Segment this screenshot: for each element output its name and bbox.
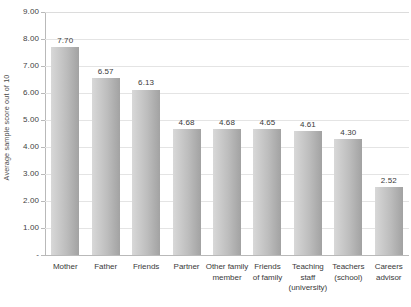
y-axis-tick: [41, 120, 45, 121]
x-axis-category-label: Teaching staff(university): [286, 262, 330, 294]
x-axis-category-label: Mother: [43, 262, 87, 273]
y-axis-tick-label: 5.00: [3, 115, 39, 124]
x-axis-category-line: Teaching staff: [286, 262, 330, 283]
bar: [294, 131, 322, 255]
y-axis-tick-label: 8.00: [3, 34, 39, 43]
y-axis-tick-label: 3.00: [3, 169, 39, 178]
y-axis-tick-label: 6.00: [3, 88, 39, 97]
bar-value-label: 4.30: [328, 128, 368, 137]
x-axis-category-label: Friends: [124, 262, 168, 273]
bar: [334, 139, 362, 255]
x-axis-category-line: advisor: [367, 273, 411, 284]
x-axis-category-line: Teachers: [326, 262, 370, 273]
x-axis-category-line: (school): [326, 273, 370, 284]
gridline: [45, 255, 409, 256]
bar: [213, 129, 241, 255]
bar: [132, 90, 160, 256]
y-axis-tick-labels: 9.008.007.006.005.004.003.002.001.00-: [0, 0, 39, 307]
bar-value-label: 6.57: [86, 67, 126, 76]
bar: [51, 47, 79, 255]
bar-value-label: 4.68: [207, 118, 247, 127]
y-axis-tick: [41, 228, 45, 229]
bar: [173, 129, 201, 255]
y-axis-tick: [41, 39, 45, 40]
x-axis-category-line: Friends: [124, 262, 168, 273]
y-axis-tick-label: 9.00: [3, 7, 39, 16]
x-axis-category-line: of family: [245, 273, 289, 284]
y-axis-tick: [41, 255, 45, 256]
bar: [375, 187, 403, 255]
x-axis-category-line: Mother: [43, 262, 87, 273]
x-axis-category-line: Father: [83, 262, 127, 273]
bar-chart-figure: Average sample score out of 10 9.008.007…: [0, 0, 411, 307]
y-axis-tick-label: -: [3, 250, 39, 259]
x-axis-category-line: (university): [286, 283, 330, 294]
x-axis-category-line: Careers: [367, 262, 411, 273]
y-axis-tick: [41, 174, 45, 175]
y-axis-tick-label: 2.00: [3, 196, 39, 205]
x-axis-category-label: Other familymember: [205, 262, 249, 283]
x-axis-category-label: Friendsof family: [245, 262, 289, 283]
gridline: [45, 12, 409, 13]
x-axis-category-line: member: [205, 273, 249, 284]
x-axis-category-line: Partner: [164, 262, 208, 273]
y-axis-tick-label: 1.00: [3, 223, 39, 232]
x-axis-category-line: Friends: [245, 262, 289, 273]
y-axis-tick: [41, 12, 45, 13]
x-axis-category-label: Careersadvisor: [367, 262, 411, 283]
bar-value-label: 4.65: [247, 118, 287, 127]
bar: [253, 129, 281, 255]
plot-area: 7.706.576.134.684.684.654.614.302.52: [45, 12, 409, 255]
y-axis-tick: [41, 93, 45, 94]
x-axis-category-label: Partner: [164, 262, 208, 273]
x-axis-category-line: Other family: [205, 262, 249, 273]
y-axis-tick: [41, 201, 45, 202]
bar-value-label: 4.61: [288, 120, 328, 129]
chart-title-clipped: [0, 0, 411, 7]
y-axis-tick: [41, 66, 45, 67]
bar-value-label: 6.13: [126, 78, 166, 87]
y-axis-tick-label: 4.00: [3, 142, 39, 151]
bar-value-label: 7.70: [45, 36, 85, 45]
bar-value-label: 2.52: [369, 176, 409, 185]
bar-value-label: 4.68: [167, 118, 207, 127]
x-axis-category-label: Father: [83, 262, 127, 273]
bar: [92, 78, 120, 255]
y-axis-tick-label: 7.00: [3, 61, 39, 70]
x-axis-category-label: Teachers(school): [326, 262, 370, 283]
y-axis-tick: [41, 147, 45, 148]
gridline: [45, 39, 409, 40]
